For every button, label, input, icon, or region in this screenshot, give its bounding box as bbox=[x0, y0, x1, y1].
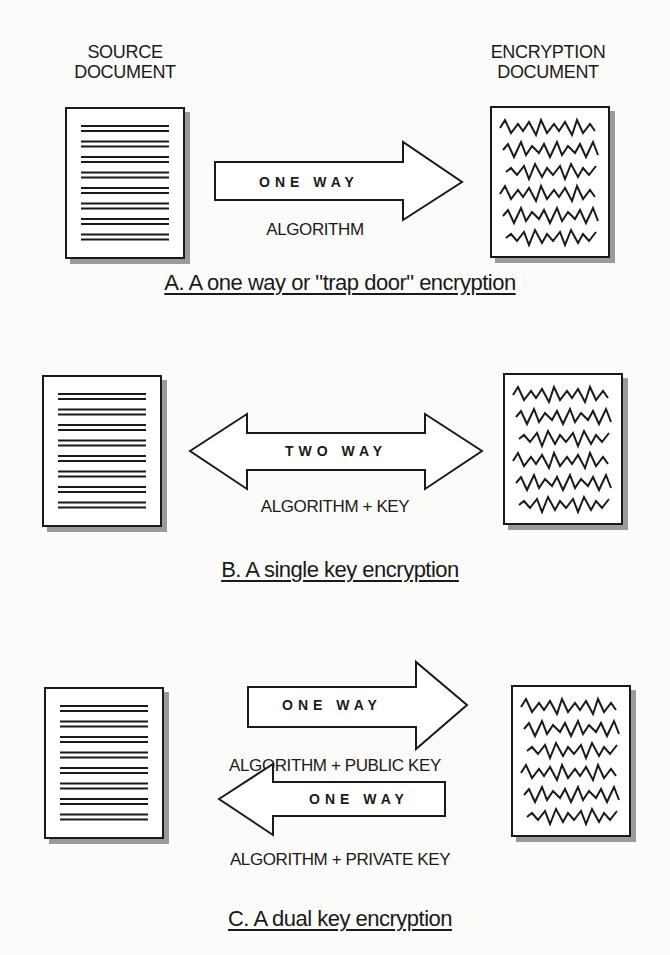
caption-c: C. A dual key encryption bbox=[60, 906, 620, 932]
algorithm-private-key-label: ALGORITHM + PRIVATE KEY bbox=[195, 850, 485, 870]
one-way-left-arrow-icon bbox=[0, 0, 670, 955]
arrow-label-one-way-private: ONE WAY bbox=[273, 791, 445, 807]
